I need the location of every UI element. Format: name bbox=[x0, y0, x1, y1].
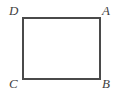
vertex-label-d: D bbox=[9, 4, 18, 17]
vertex-label-c: C bbox=[9, 77, 18, 90]
rectangle-outline bbox=[23, 18, 100, 79]
vertex-label-a: A bbox=[102, 4, 110, 17]
geometry-figure: D A C B bbox=[0, 0, 124, 95]
vertex-label-b: B bbox=[102, 77, 110, 90]
